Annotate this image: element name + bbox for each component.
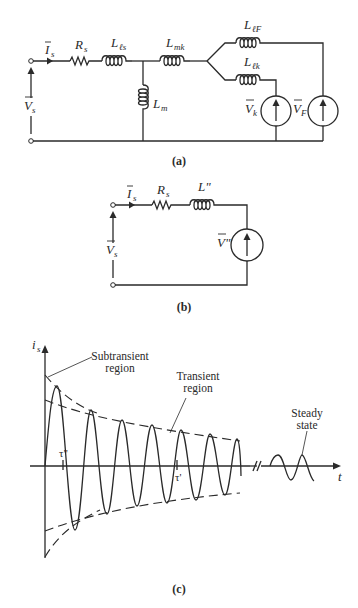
steady-state-waveform xyxy=(270,455,314,481)
subtransient-leader xyxy=(48,357,92,377)
caption-b: (b) xyxy=(177,300,192,314)
svg-text:L: L xyxy=(243,54,251,69)
terminal-top-a xyxy=(29,59,34,64)
arrow-up-icon xyxy=(320,99,327,106)
label-lls: L ℓs xyxy=(110,35,127,52)
tau-subtransient-label: τ" xyxy=(59,447,68,459)
label-llk: L ℓk xyxy=(243,54,261,71)
label-vf: V F xyxy=(293,100,307,118)
svg-text:s: s xyxy=(114,249,118,259)
caption-a: (a) xyxy=(172,154,186,168)
svg-text:V": V" xyxy=(217,235,231,250)
y-axis-arrow-icon xyxy=(42,345,49,353)
svg-text:L: L xyxy=(165,35,173,50)
svg-text:k: k xyxy=(253,108,258,118)
svg-text:L: L xyxy=(110,35,118,50)
circuit-b: I s V s R s L" V" (b) xyxy=(106,179,263,314)
label-is-a: I s xyxy=(44,42,55,59)
fault-current-waveform xyxy=(45,386,241,530)
figure-canvas: I s V s R s L ℓs L m L mk L ℓF L xyxy=(0,0,358,608)
voltage-arrow-icon xyxy=(110,211,117,218)
svg-text:s: s xyxy=(166,189,170,199)
subtransient-envelope-bottom xyxy=(45,510,100,557)
voltage-arrow-icon xyxy=(28,67,35,74)
inductor-llk xyxy=(236,75,266,85)
x-axis-label: t xyxy=(338,469,342,484)
label-is-b: I s xyxy=(126,186,137,203)
svg-text:L: L xyxy=(243,17,251,32)
label-lmk: L mk xyxy=(165,35,185,52)
transient-leader xyxy=(170,398,186,433)
svg-text:m: m xyxy=(161,103,168,113)
inductor-lm xyxy=(139,85,149,118)
label-vs-b: V s xyxy=(106,241,118,259)
svg-text:R: R xyxy=(74,37,83,52)
svg-text:ℓF: ℓF xyxy=(252,24,262,34)
svg-text:F: F xyxy=(300,108,307,118)
resistor-rs-a xyxy=(70,57,102,65)
tau-transient-label: τ' xyxy=(175,471,181,483)
label-rs-b: R s xyxy=(156,182,170,199)
svg-text:R: R xyxy=(156,182,165,197)
label-vs-a: V s xyxy=(24,97,36,115)
svg-text:s: s xyxy=(133,193,137,203)
circuit-a: I s V s R s L ℓs L m L mk L ℓF L xyxy=(24,17,338,168)
label-v-doubleprime: V" xyxy=(217,234,231,250)
label-lm: L m xyxy=(152,96,168,113)
label-l-doubleprime: L" xyxy=(197,179,211,194)
label-vk: V k xyxy=(245,100,258,118)
label-llf: L ℓF xyxy=(243,17,262,34)
svg-text:s: s xyxy=(51,49,55,59)
svg-text:L: L xyxy=(152,96,160,111)
subtransient-label-line2: region xyxy=(105,362,135,375)
arrow-up-icon xyxy=(273,99,280,106)
svg-text:s: s xyxy=(32,105,36,115)
subtransient-label-line1: Subtransient xyxy=(91,350,149,362)
inductor-lls xyxy=(102,56,132,66)
waveform-plot: τ" τ' i s t Subtransient region Transien… xyxy=(30,337,342,596)
transient-label-line1: Transient xyxy=(176,370,220,382)
svg-text:s: s xyxy=(37,344,41,354)
terminal-top-b xyxy=(111,203,116,208)
caption-c: (c) xyxy=(172,582,185,596)
svg-text:I: I xyxy=(126,186,132,201)
inductor-l-doubleprime xyxy=(190,200,220,210)
svg-text:I: I xyxy=(44,42,50,57)
arrow-up-icon xyxy=(244,233,251,240)
inductor-llf xyxy=(236,38,266,48)
resistor-rs-b xyxy=(152,201,190,209)
y-axis-label: i s xyxy=(32,337,41,354)
label-rs-a: R s xyxy=(74,37,88,54)
svg-text:s: s xyxy=(84,44,88,54)
svg-text:mk: mk xyxy=(174,42,185,52)
terminal-bottom-a xyxy=(29,139,34,144)
terminal-bottom-b xyxy=(111,283,116,288)
steady-leader xyxy=(302,431,307,455)
svg-text:i: i xyxy=(32,337,36,352)
inductor-lmk xyxy=(160,56,190,66)
transient-label-line2: region xyxy=(183,382,213,395)
svg-text:ℓs: ℓs xyxy=(119,42,127,52)
steady-label-line2: state xyxy=(296,419,317,431)
svg-text:ℓk: ℓk xyxy=(252,61,261,71)
